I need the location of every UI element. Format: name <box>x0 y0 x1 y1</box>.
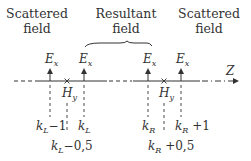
label-kL: kL <box>78 119 91 135</box>
svg-text:Ex: Ex <box>78 52 93 68</box>
ex-arrows <box>50 71 181 81</box>
ex-label-2: Ex <box>78 52 93 68</box>
hy-label-right: Hy <box>158 86 174 102</box>
z-axis-label: Z <box>225 64 235 78</box>
header-left-line1: Scattered <box>6 6 68 21</box>
label-kR-plus-half: kR +0,5 <box>148 139 194 155</box>
yee-grid-tfsf-diagram: Scattered field Resultant field Scattere… <box>0 0 251 161</box>
label-kL-minus-1: kL−1 <box>36 119 66 135</box>
header-right-line2: field <box>195 21 223 36</box>
resultant-brace <box>85 41 152 47</box>
header-right-line1: Scattered <box>178 6 240 21</box>
ex-label-3: Ex <box>142 52 157 68</box>
label-kR-plus-1: kR +1 <box>175 119 210 135</box>
ex-label-1: Ex <box>44 52 59 68</box>
svg-text:Hy: Hy <box>61 86 77 102</box>
label-kR: kR <box>142 119 155 135</box>
hy-label-left: Hy <box>61 86 77 102</box>
svg-text:Ex: Ex <box>44 52 59 68</box>
header-left-line2: field <box>23 21 51 36</box>
svg-text:Ex: Ex <box>175 52 190 68</box>
header-center-line2: field <box>112 21 140 36</box>
svg-text:Ex: Ex <box>142 52 157 68</box>
svg-text:Hy: Hy <box>158 86 174 102</box>
ex-label-4: Ex <box>175 52 190 68</box>
label-kL-minus-half: kL−0,5 <box>51 139 93 155</box>
header-center-line1: Resultant <box>96 6 157 21</box>
